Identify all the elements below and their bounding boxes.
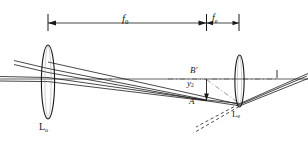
ray-conv-3 — [48, 78, 207, 101]
label-focal-length-objective: f0 — [122, 13, 128, 26]
label-eyepiece-lens: Le — [232, 110, 240, 120]
ray-exit-1 — [240, 74, 308, 104]
ray-in-axial-1 — [0, 77, 48, 78]
dimension-arrow-fe-right — [233, 21, 240, 25]
label-objective-lens: Lo — [39, 122, 48, 133]
ray-exit-3 — [240, 76, 307, 105]
eyepiece-lens-inner-highlight — [237, 56, 241, 106]
label-point-b-prime: B′ — [190, 66, 197, 75]
optical-diagram-figure: f0 fe Lo Le B′ y2 A′ — [0, 0, 308, 147]
label-image-height-y2: y2 — [187, 79, 194, 89]
exit-rays — [240, 74, 308, 106]
ray-exit-2 — [240, 79, 308, 106]
label-focal-length-eyepiece: fe — [212, 13, 218, 24]
dimension-arrow-f0-left — [48, 20, 56, 25]
ray-cross-upper — [48, 62, 240, 105]
converging-rays — [48, 62, 240, 105]
eyepiece-lens — [235, 55, 244, 107]
ray-in-oblique-2 — [14, 65, 48, 73]
label-point-a-prime: A′ — [189, 97, 196, 106]
ray-in-axial-2 — [0, 81, 48, 82]
dimension-arrow-f0-right — [199, 20, 207, 25]
dimension-group — [48, 14, 239, 31]
incoming-rays — [0, 61, 48, 82]
